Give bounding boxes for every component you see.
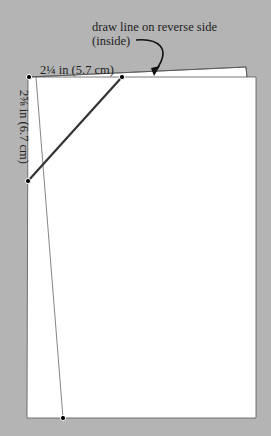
- width-dimension-label: 2¼ in (5.7 cm): [40, 63, 114, 77]
- dot-left-measure: [25, 178, 30, 183]
- front-sheet: [27, 77, 256, 418]
- dot-bottom: [60, 415, 65, 420]
- dot-top-measure: [119, 74, 124, 79]
- height-dimension-label: 2⅝ in (6.7 cm): [17, 77, 31, 177]
- annotation-line-2: (inside): [92, 34, 130, 48]
- annotation-line-1: draw line on reverse side: [92, 20, 217, 34]
- curved-arrow-icon: [136, 40, 163, 70]
